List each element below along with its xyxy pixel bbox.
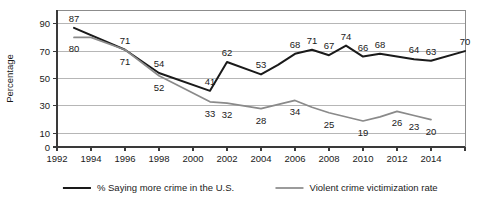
value-label-s0-1998: 54 (154, 58, 165, 69)
value-label-s1-2010: 19 (358, 127, 369, 138)
chart-canvas: 01030507090 1992199419961998200020022004… (0, 0, 503, 205)
y-tick-label-50: 50 (39, 73, 50, 84)
x-tick-label-2006: 2006 (284, 153, 305, 164)
value-label-s1-2014: 20 (426, 126, 437, 137)
value-label-s1-1998: 52 (154, 82, 165, 93)
x-axis: 1992199419961998200020022004200620082010… (46, 147, 465, 164)
value-label-s0-2008: 67 (324, 40, 335, 51)
x-tick-label-1992: 1992 (46, 153, 67, 164)
value-label-s0-2010: 66 (358, 42, 369, 53)
x-tick-label-2010: 2010 (352, 153, 373, 164)
x-tick-label-2004: 2004 (250, 153, 271, 164)
y-axis-title: Percentage (4, 54, 15, 103)
y-axis: 01030507090 (39, 10, 57, 153)
y-tick-label-70: 70 (39, 46, 50, 57)
y-tick-label-0: 0 (45, 142, 50, 153)
series-line-1 (74, 37, 431, 121)
value-label-s0-2011: 68 (375, 39, 386, 50)
value-label-s0-1996: 71 (120, 35, 131, 46)
series-lines (74, 28, 465, 121)
value-label-s0-2002: 62 (222, 47, 233, 58)
value-label-s1-2004: 28 (256, 115, 267, 126)
value-label-s1-2001: 33 (205, 108, 216, 119)
x-tick-label-2014: 2014 (420, 153, 441, 164)
legend-label-1: Violent crime victimization rate (309, 182, 437, 193)
value-label-s0-2004: 53 (256, 59, 267, 70)
x-tick-label-2008: 2008 (318, 153, 339, 164)
value-label-s0-2016: 70 (460, 36, 471, 47)
value-label-s0-2013: 64 (409, 44, 420, 55)
value-label-s1-2008: 25 (324, 119, 335, 130)
value-label-s1-1996: 71 (120, 56, 131, 67)
legend-label-0: % Saying more crime in the U.S. (97, 182, 234, 193)
value-label-s0-2001: 41 (205, 76, 216, 87)
value-label-s0-1993: 87 (69, 13, 80, 24)
value-label-s1-2013: 23 (409, 121, 420, 132)
y-tick-label-10: 10 (39, 128, 50, 139)
y-axis-title-text: Percentage (4, 54, 15, 103)
line-chart: 01030507090 1992199419961998200020022004… (0, 0, 503, 205)
value-label-s0-2007: 71 (307, 35, 318, 46)
value-label-s0-2014: 63 (426, 46, 437, 57)
value-label-s1-1993: 80 (69, 43, 80, 54)
value-label-s1-2006: 34 (290, 106, 301, 117)
value-label-s1-2012: 26 (392, 117, 403, 128)
chart-legend: % Saying more crime in the U.S.Violent c… (63, 182, 438, 193)
x-tick-label-2002: 2002 (216, 153, 237, 164)
value-label-s1-2002: 32 (222, 109, 233, 120)
data-value-labels: 8771544162536871677466686463708071523332… (69, 13, 471, 138)
x-tick-label-1998: 1998 (148, 153, 169, 164)
x-tick-label-2000: 2000 (182, 153, 203, 164)
value-label-s0-2009: 74 (341, 31, 352, 42)
x-tick-label-2012: 2012 (386, 153, 407, 164)
y-tick-label-30: 30 (39, 100, 50, 111)
value-label-s0-2006: 68 (290, 39, 301, 50)
x-tick-label-1994: 1994 (80, 153, 101, 164)
x-tick-label-1996: 1996 (114, 153, 135, 164)
y-tick-label-90: 90 (39, 18, 50, 29)
series-line-0 (74, 28, 465, 91)
